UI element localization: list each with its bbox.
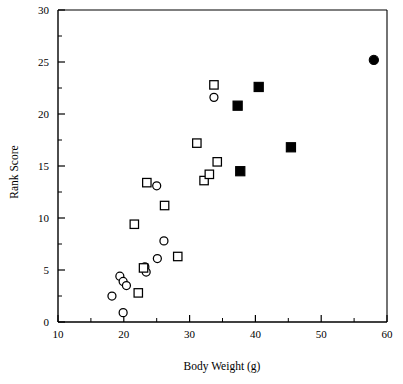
data-markers-group [108,55,378,316]
data-point-open-circle [108,292,116,300]
x-tick-label: 20 [118,328,130,340]
data-point-open-circle [119,309,127,317]
data-point-filled-square [254,82,263,91]
data-point-open-square [193,139,201,147]
y-tick-label: 20 [38,108,50,120]
data-point-open-square [213,158,221,166]
axes-group [58,10,387,322]
chart-canvas: 102030405060051015202530 Body Weight (g)… [0,0,403,384]
data-point-open-square [174,252,182,260]
ticks-group [58,10,387,322]
x-tick-label: 60 [382,328,394,340]
data-point-open-square [139,264,147,272]
data-point-open-square [205,170,213,178]
x-tick-label: 40 [250,328,262,340]
data-point-open-circle [153,182,161,190]
x-axis-title: Body Weight (g) [184,360,261,373]
data-point-open-circle [160,237,168,245]
data-point-open-square [160,201,168,209]
data-point-filled-square [236,167,245,176]
x-tick-label: 50 [316,328,328,340]
x-tick-label: 10 [53,328,65,340]
y-axis-title: Rank Score [8,145,20,198]
data-point-open-square [134,289,142,297]
data-point-filled-circle [369,55,378,64]
y-tick-label: 15 [38,160,50,172]
y-tick-label: 25 [38,56,50,68]
tick-labels-group: 102030405060051015202530 [38,4,393,340]
data-point-open-circle [122,282,130,290]
data-point-open-square [210,81,218,89]
data-point-filled-square [286,143,295,152]
y-tick-label: 5 [44,264,50,276]
data-point-open-square [130,220,138,228]
x-tick-label: 30 [184,328,196,340]
scatter-plot-figure: 102030405060051015202530 Body Weight (g)… [0,0,403,384]
y-tick-label: 10 [38,212,50,224]
y-tick-label: 30 [38,4,50,16]
data-point-open-circle [210,93,218,101]
data-point-filled-square [233,101,242,110]
y-tick-label: 0 [44,316,50,328]
data-point-open-circle [153,255,161,263]
data-point-open-square [143,178,151,186]
